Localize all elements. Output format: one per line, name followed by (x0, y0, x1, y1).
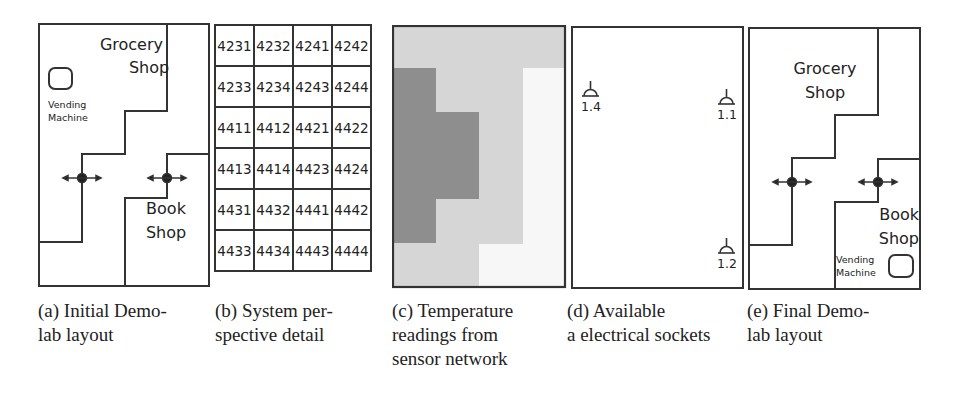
sockets-plan: 1.4 1.1 1.2 (571, 26, 745, 290)
temperature-heatmap (392, 25, 567, 289)
grid-cell: 4443 (293, 230, 332, 271)
grid-cell: 4231 (215, 25, 254, 66)
grid-cell: 4434 (254, 230, 293, 271)
panel-a-initial-layout: Grocery Shop Vending Machine Book Shop (38, 23, 211, 288)
grid-cell: 4232 (254, 25, 293, 66)
svg-text:Shop: Shop (879, 229, 919, 248)
grid-cell: 4441 (293, 189, 332, 230)
grid-cell: 4444 (332, 230, 371, 271)
grid-cell: 4432 (254, 189, 293, 230)
caption-a: (a) Initial Demo- lab layout (38, 299, 210, 347)
grid-cell: 4412 (254, 107, 293, 148)
socket-1-4 (582, 81, 599, 96)
svg-text:Shop: Shop (146, 223, 186, 242)
caption-b: (b) System per- spective detail (215, 299, 385, 347)
grid-row: 4231 4232 4241 4242 (215, 25, 371, 66)
floorplan-initial: Grocery Shop Vending Machine Book Shop (38, 23, 211, 288)
grid-cell: 4233 (215, 66, 254, 107)
grid-row: 4431 4432 4441 4442 (215, 189, 371, 230)
caption-c: (c) Temperature readings from sensor net… (392, 299, 564, 371)
door-marker-right (148, 174, 186, 183)
grid-cell: 4422 (332, 107, 371, 148)
panel-b-system-grid: 4231 4232 4241 4242 4233 4234 4243 4244 … (214, 24, 381, 288)
grid-cell: 4243 (293, 66, 332, 107)
socket-label: 1.2 (717, 256, 737, 271)
book-shop-label: Book (879, 205, 920, 224)
vending-machine-label: Vending (48, 99, 86, 110)
socket-1-1 (718, 89, 735, 104)
grid-cell: 4234 (254, 66, 293, 107)
svg-text:Machine: Machine (48, 112, 88, 123)
grocery-shop-label: Grocery (100, 35, 163, 54)
grid-row: 4433 4434 4443 4444 (215, 230, 371, 271)
grid-cell: 4244 (332, 66, 371, 107)
svg-text:Shop: Shop (129, 58, 169, 77)
grid-cell: 4411 (215, 107, 254, 148)
caption-d: (d) Available a electrical sockets (567, 299, 744, 347)
caption-e: (e) Final Demo- lab layout (747, 299, 919, 347)
grid-cell: 4431 (215, 189, 254, 230)
svg-text:Shop: Shop (805, 83, 845, 102)
svg-text:Machine: Machine (836, 267, 876, 278)
book-shop-label: Book (146, 199, 187, 218)
socket-label: 1.4 (581, 99, 601, 114)
panel-e-final-layout: Grocery Shop Book Shop Vending Machine (748, 27, 922, 291)
grid-row: 4413 4414 4423 4424 (215, 148, 371, 189)
grid-cell: 4423 (293, 148, 332, 189)
grid-cell: 4433 (215, 230, 254, 271)
door-marker-right (859, 178, 897, 187)
grid-cell: 4414 (254, 148, 293, 189)
grid-row: 4411 4412 4421 4422 (215, 107, 371, 148)
grocery-shop-label: Grocery (793, 59, 856, 78)
socket-label: 1.1 (717, 107, 737, 122)
door-marker-left (773, 178, 811, 187)
cell-id-grid: 4231 4232 4241 4242 4233 4234 4243 4244 … (214, 24, 372, 272)
grid-cell: 4242 (332, 25, 371, 66)
grid-cell: 4413 (215, 148, 254, 189)
grid-cell: 4424 (332, 148, 371, 189)
socket-1-2 (718, 238, 735, 253)
door-marker-left (63, 174, 101, 183)
grid-cell: 4442 (332, 189, 371, 230)
panel-c-temperature-map (392, 25, 567, 289)
grid-cell: 4241 (293, 25, 332, 66)
panel-d-electrical-sockets: 1.4 1.1 1.2 (571, 26, 745, 290)
vending-machine-label: Vending (836, 254, 874, 265)
grid-row: 4233 4234 4243 4244 (215, 66, 371, 107)
grid-cell: 4421 (293, 107, 332, 148)
floorplan-final: Grocery Shop Book Shop Vending Machine (748, 27, 922, 291)
